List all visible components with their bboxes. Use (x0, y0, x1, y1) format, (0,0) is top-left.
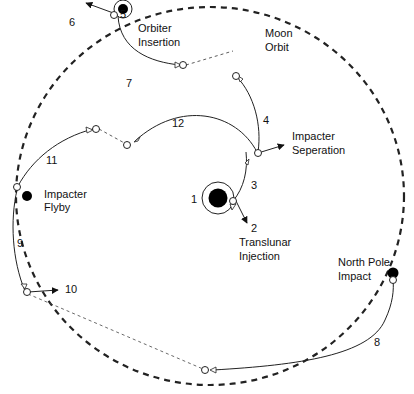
event-label-11: 11 (46, 154, 57, 166)
event-label-3: 3 (251, 179, 257, 191)
coast-segment-b (28, 294, 203, 369)
node-segment11-start (93, 126, 100, 133)
event-label-12: 12 (172, 117, 184, 129)
event-label-1: 1 (191, 193, 197, 205)
event-label-5: 5 (120, 8, 126, 20)
event-label-6: 6 (69, 16, 75, 28)
node-top-right (233, 73, 240, 80)
impacter-flyby-label-1: Impacter (44, 188, 87, 200)
north-pole-impact-label-1: North Pole (338, 256, 390, 268)
moon-flyby-icon (22, 191, 32, 201)
event-label-9: 9 (17, 237, 23, 249)
orbiter-insertion-label-2: Insertion (138, 36, 180, 48)
earth-icon (202, 182, 234, 214)
event-label-8: 8 (374, 336, 380, 348)
trajectory-diagram: 1 2 3 4 5 6 7 8 9 10 11 12 Orbiter Inser… (0, 0, 414, 394)
trajectory-arrow-8 (210, 367, 216, 373)
impacter-separation-label-2: Seperation (292, 144, 345, 156)
translunar-injection-label-1: Translunar (239, 236, 292, 248)
trajectory-segment-4 (237, 77, 259, 152)
node-impact (390, 277, 397, 284)
node-orbiter (111, 12, 118, 19)
event-label-4: 4 (263, 114, 269, 126)
node-segment7-end (180, 62, 187, 69)
impacter-flyby-label-2: Flyby (44, 201, 71, 213)
impacter-separation-arrow (258, 145, 284, 153)
moon-orbit-label-2: Orbit (265, 41, 289, 53)
coast-segment-a (99, 129, 128, 145)
moon-orbit-label-1: Moon (265, 27, 293, 39)
orbiter-insertion-label-1: Orbiter (138, 22, 172, 34)
translunar-injection-label-2: Injection (239, 250, 280, 262)
event-label-7: 7 (126, 77, 132, 89)
event-label-2: 2 (251, 222, 257, 234)
event-label-10: 10 (65, 283, 77, 295)
north-pole-impact-label-2: Impact (338, 270, 371, 282)
trajectory-segment-12 (135, 116, 257, 152)
trajectory-segment-8 (213, 279, 393, 370)
translunar-injection-arrow (236, 201, 247, 223)
coast-segment-c (186, 51, 233, 65)
node-flyby (14, 184, 21, 191)
node-separation (255, 150, 262, 157)
trajectory-arrow-12 (134, 137, 140, 142)
node-bottom (202, 367, 209, 374)
node-bottom-left (24, 289, 31, 296)
node-segment12-end (124, 142, 131, 149)
node-earth-departure (230, 198, 237, 205)
impacter-separation-label-1: Impacter (292, 130, 335, 142)
trajectory-segment-3 (233, 152, 246, 201)
trajectory-arrow-11 (86, 127, 93, 133)
